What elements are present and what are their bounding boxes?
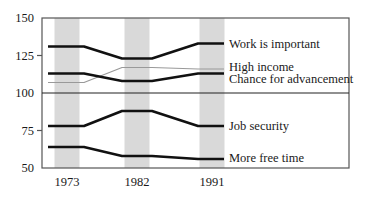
y-tick-label-125: 125 [4, 49, 34, 63]
y-tick-label-75: 75 [4, 124, 34, 138]
series-label-job-security: Job security [229, 119, 289, 133]
x-tick-label-1982: 1982 [117, 175, 157, 189]
plot-area [0, 0, 374, 202]
series-label-work-is-important: Work is important [229, 37, 320, 51]
series-label-chance-for-advancement: Chance for advancement [229, 72, 353, 86]
y-tick-label-50: 50 [4, 161, 34, 175]
y-tick-label-150: 150 [4, 11, 34, 25]
x-tick-label-1991: 1991 [192, 175, 232, 189]
series-label-more-free-time: More free time [229, 151, 304, 165]
x-tick-label-1973: 1973 [47, 175, 87, 189]
work-values-line-chart: 150 125 100 75 50 1973 1982 1991 Work is… [0, 0, 374, 202]
y-tick-label-100: 100 [4, 86, 34, 100]
